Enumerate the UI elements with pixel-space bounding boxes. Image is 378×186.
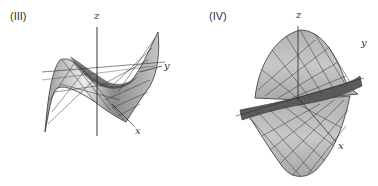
surface-plot-iv <box>0 0 378 186</box>
